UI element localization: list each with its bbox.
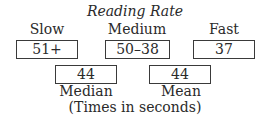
fast-value-box: 37 — [193, 40, 255, 59]
slow-label: Slow — [14, 21, 80, 37]
mean-value-box: 44 — [149, 65, 211, 84]
medium-label: Medium — [102, 21, 172, 37]
diagram-title: Reading Rate — [0, 3, 270, 19]
units-note: (Times in seconds) — [60, 99, 210, 115]
fast-label: Fast — [191, 21, 257, 37]
median-label: Median — [50, 83, 122, 99]
slow-value-box: 51+ — [16, 40, 78, 59]
median-value-box: 44 — [55, 65, 117, 84]
medium-value-box: 50–38 — [105, 40, 170, 59]
mean-label: Mean — [145, 83, 217, 99]
